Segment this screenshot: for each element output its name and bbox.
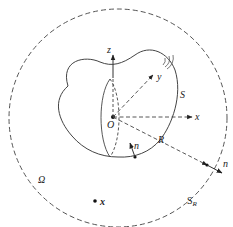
y-axis: [113, 75, 153, 117]
x-axis-label: x: [194, 111, 200, 122]
field-point: [93, 199, 97, 203]
domain-label: Ω: [38, 174, 45, 185]
outer-normal-label: n: [223, 158, 228, 169]
sound-wave-icon: [163, 55, 173, 69]
surface-label: S: [180, 89, 185, 100]
outer-sphere-label: SR: [187, 195, 198, 208]
y-axis-label: y: [156, 71, 162, 82]
inner-normal-label: n: [134, 140, 139, 151]
z-axis-label: z: [106, 44, 111, 55]
field-point-label: x: [99, 196, 105, 207]
radius-label: R: [157, 134, 164, 145]
diagram-canvas: z y x O S R n n Ω SR x: [0, 0, 233, 227]
origin-label: O: [107, 119, 114, 130]
outer-normal: [207, 165, 222, 173]
cross-section-solid: [101, 79, 110, 157]
